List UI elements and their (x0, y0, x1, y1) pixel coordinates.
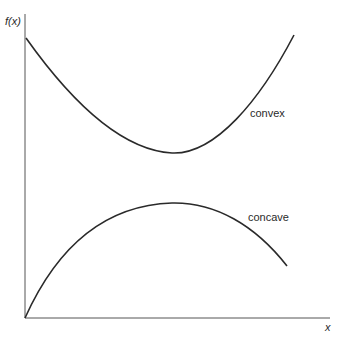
y-axis-label: f(x) (5, 16, 21, 27)
convex-label: convex (250, 108, 285, 119)
convex-curve (26, 35, 294, 153)
x-axis-label: x (325, 322, 331, 333)
concave-label: concave (248, 212, 289, 223)
diagram-canvas (0, 0, 341, 341)
